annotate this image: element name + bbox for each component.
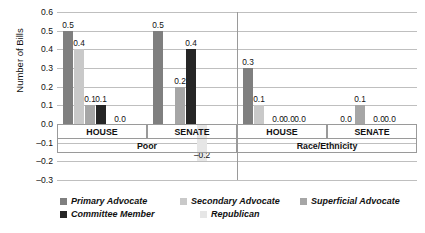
bar-group: 0.00.10.00.0 [327, 12, 417, 180]
bar-value-label: 0.1 [248, 94, 270, 104]
bar-group: 0.50.40.10.10.0 [57, 12, 147, 180]
legend-swatch [200, 211, 207, 218]
bar [96, 105, 106, 124]
bar-value-label: 0.5 [147, 20, 169, 30]
bar [175, 87, 185, 124]
bar-value-label: 0.0 [335, 114, 357, 124]
y-axis-tick-label: 0.5 [41, 26, 53, 36]
gridline: –0.3 [57, 180, 417, 181]
legend-label: Superficial Advocate [311, 196, 400, 206]
bar [355, 105, 365, 124]
bar-value-label: 0.1 [349, 94, 371, 104]
legend-item: Superficial Advocate [300, 196, 420, 206]
category-label-chamber: SENATE [147, 124, 237, 139]
category-label-topic: Race/Ethnicity [237, 138, 417, 153]
bar-value-label: 0.3 [237, 57, 259, 67]
legend-item: Primary Advocate [60, 196, 180, 206]
legend-item: Committee Member [60, 209, 200, 219]
legend-swatch [60, 198, 67, 205]
legend-swatch [180, 198, 187, 205]
legend-label: Secondary Advocate [191, 196, 280, 206]
legend-swatch [300, 198, 307, 205]
group-separator [237, 12, 238, 180]
chart-legend: Primary AdvocateSecondary AdvocateSuperf… [60, 196, 420, 222]
y-axis-tick-label: 0.2 [41, 82, 53, 92]
category-label-chamber: HOUSE [237, 124, 327, 139]
y-axis-tick-label: 0.1 [41, 100, 53, 110]
plot-area: 0.60.50.40.30.20.10.0–0.1–0.2–0.30.50.40… [57, 12, 417, 180]
bar [186, 49, 196, 124]
y-axis-tick-label: –0.3 [36, 175, 53, 185]
legend-item: Secondary Advocate [180, 196, 300, 206]
bar-value-label: 0.5 [57, 20, 79, 30]
bar-value-label: 0.4 [68, 38, 90, 48]
bar-value-label: 0.1 [90, 94, 112, 104]
y-axis-tick-label: –0.1 [36, 138, 53, 148]
y-axis-tick-label: 0.6 [41, 7, 53, 17]
legend-swatch [60, 211, 67, 218]
bar [85, 105, 95, 124]
bar [153, 31, 163, 124]
legend-label: Republican [211, 209, 260, 219]
y-axis-tick-label: 0.4 [41, 44, 53, 54]
bar-value-label: 0.0 [289, 114, 311, 124]
category-label-chamber: SENATE [327, 124, 417, 139]
bar-chart: Number of Bills 0.60.50.40.30.20.10.0–0.… [0, 0, 425, 233]
legend-row-2: Committee MemberRepublican [60, 209, 420, 219]
category-label-topic: Poor [57, 138, 237, 153]
bar-value-label: 0.0 [379, 114, 401, 124]
bar-value-label: 0.4 [180, 38, 202, 48]
y-axis-tick-label: 0.0 [41, 119, 53, 129]
y-axis-tick-label: 0.3 [41, 63, 53, 73]
legend-row-1: Primary AdvocateSecondary AdvocateSuperf… [60, 196, 420, 206]
bar-group: 0.30.10.00.00.0 [237, 12, 327, 180]
legend-label: Primary Advocate [71, 196, 147, 206]
bar [74, 49, 84, 124]
bar [254, 105, 264, 124]
category-label-chamber: HOUSE [57, 124, 147, 139]
y-axis-tick-label: –0.2 [36, 156, 53, 166]
legend-label: Committee Member [71, 209, 155, 219]
bar-group: 0.50.20.4–0.2 [147, 12, 237, 180]
y-axis-title: Number of Bills [14, 11, 25, 111]
bar-value-label: 0.0 [109, 114, 131, 124]
legend-item: Republican [200, 209, 340, 219]
